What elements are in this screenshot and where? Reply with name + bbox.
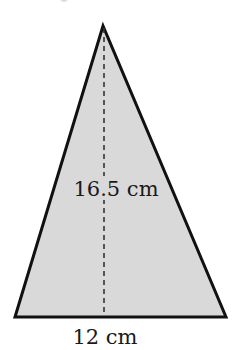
base-label: 12 cm — [72, 325, 137, 349]
triangle-diagram: 16.5 cm 12 cm — [0, 0, 232, 350]
triangle-shape — [15, 26, 226, 317]
height-label: 16.5 cm — [73, 177, 158, 201]
